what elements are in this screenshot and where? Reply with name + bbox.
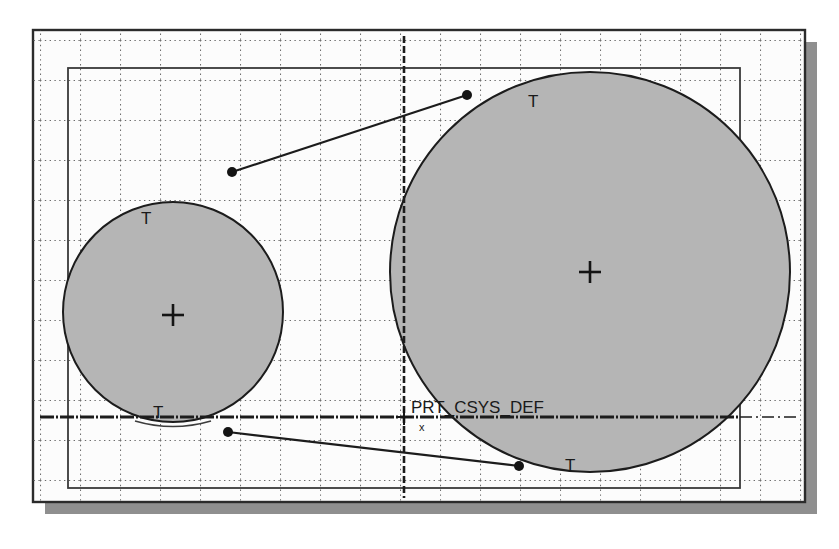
tangent-line-upper-endpoint-start[interactable]	[227, 167, 237, 177]
tangent-line-lower-endpoint-start[interactable]	[223, 427, 233, 437]
tangent-constraint-label: T	[141, 209, 151, 228]
cad-drawing-canvas[interactable]: T T T T PRT_CSYS_DEF x	[0, 0, 839, 549]
tangent-constraint-label: T	[565, 456, 575, 475]
cad-screenshot-root: T T T T PRT_CSYS_DEF x	[0, 0, 839, 549]
tangent-constraint-label: T	[153, 403, 163, 422]
tangent-line-upper-endpoint-end[interactable]	[462, 90, 472, 100]
tangent-constraint-marker[interactable]: T	[565, 456, 575, 475]
tangent-line-lower-endpoint-end[interactable]	[514, 461, 524, 471]
tangent-constraint-label: T	[528, 92, 538, 111]
tangent-constraint-marker[interactable]: T	[528, 92, 538, 111]
csys-label[interactable]: PRT_CSYS_DEF	[411, 398, 544, 417]
tangent-constraint-marker[interactable]: T	[153, 403, 163, 422]
csys-x-axis-label: x	[419, 421, 425, 433]
tangent-constraint-marker[interactable]: T	[141, 209, 151, 228]
